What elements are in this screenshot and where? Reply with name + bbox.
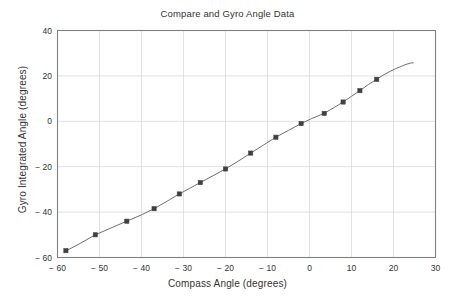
x-tick-label: − 60 bbox=[49, 263, 66, 273]
x-tick-label: 0 bbox=[307, 263, 312, 273]
y-tick-label: 0 bbox=[20, 116, 52, 126]
x-axis-label: Compass Angle (degrees) bbox=[0, 278, 455, 289]
y-tick-label: − 40 bbox=[20, 207, 52, 217]
data-point-marker bbox=[223, 167, 227, 171]
data-point-marker bbox=[198, 180, 202, 184]
x-tick-label: − 40 bbox=[133, 263, 150, 273]
x-tick-label: − 10 bbox=[259, 263, 276, 273]
data-point-marker bbox=[341, 100, 345, 104]
data-point-marker bbox=[375, 77, 379, 81]
data-point-marker bbox=[152, 207, 156, 211]
y-tick-label: 20 bbox=[20, 71, 52, 81]
plot-area bbox=[0, 0, 455, 302]
x-tick-label: 30 bbox=[431, 263, 440, 273]
data-point-marker bbox=[322, 111, 326, 115]
data-point-marker bbox=[249, 151, 253, 155]
y-tick-label: − 20 bbox=[20, 162, 52, 172]
data-point-marker bbox=[358, 89, 362, 93]
data-point-marker bbox=[64, 249, 68, 253]
data-point-marker bbox=[299, 121, 303, 125]
x-tick-label: − 20 bbox=[217, 263, 234, 273]
chart-figure: Compare and Gyro Angle Data Gyro Integra… bbox=[0, 0, 455, 302]
data-point-marker bbox=[93, 233, 97, 237]
x-tick-label: 20 bbox=[389, 263, 398, 273]
y-tick-label: 40 bbox=[20, 26, 52, 36]
plot-frame bbox=[58, 31, 436, 258]
x-tick-label: − 50 bbox=[91, 263, 108, 273]
data-point-marker bbox=[274, 135, 278, 139]
data-point-marker bbox=[177, 192, 181, 196]
y-tick-label: − 60 bbox=[20, 253, 52, 263]
data-point-marker bbox=[125, 219, 129, 223]
x-tick-label: 10 bbox=[347, 263, 356, 273]
x-tick-label: − 30 bbox=[175, 263, 192, 273]
